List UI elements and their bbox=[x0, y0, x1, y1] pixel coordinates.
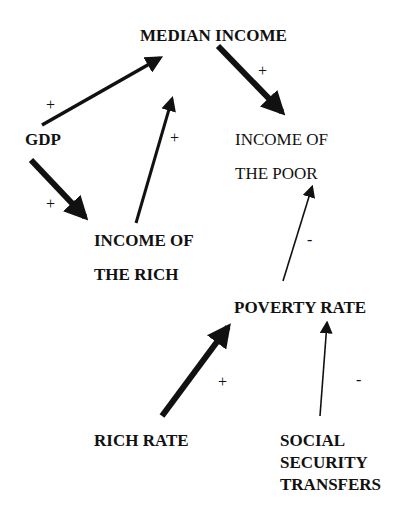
node-label-line-3: TRANSFERS bbox=[280, 476, 381, 493]
node-label: MEDIAN INCOME bbox=[140, 27, 287, 44]
node-rich-rate: RICH RATE bbox=[94, 432, 189, 449]
arrow-income-rich-to-median-income bbox=[136, 99, 172, 223]
node-label: POVERTY RATE bbox=[234, 299, 366, 316]
sign-socialsecurity-poverty: - bbox=[356, 372, 361, 388]
sign-median-poor: + bbox=[258, 63, 267, 79]
causal-loop-diagram: MEDIAN INCOME GDP INCOME OF THE POOR INC… bbox=[0, 0, 406, 519]
node-median-income: MEDIAN INCOME bbox=[140, 27, 287, 44]
node-income-of-the-poor: INCOME OF THE POOR bbox=[235, 131, 328, 182]
arrow-gdp-to-income-rich bbox=[31, 160, 85, 217]
arrow-social-security-to-poverty-rate bbox=[320, 323, 327, 416]
node-gdp: GDP bbox=[25, 131, 61, 148]
node-label-line-2: THE POOR bbox=[235, 165, 328, 182]
node-income-of-the-rich: INCOME OF THE RICH bbox=[94, 232, 194, 283]
node-label: GDP bbox=[25, 131, 61, 148]
node-label-line-1: INCOME OF bbox=[235, 131, 328, 148]
node-label: RICH RATE bbox=[94, 432, 189, 449]
arrow-median-income-to-income-poor bbox=[218, 46, 282, 112]
sign-poverty-poor: - bbox=[307, 232, 312, 248]
arrow-rich-rate-to-poverty-rate bbox=[162, 327, 228, 416]
node-social-security-transfers: SOCIAL SECURITY TRANSFERS bbox=[280, 432, 381, 493]
node-label-line-2: SECURITY bbox=[280, 454, 381, 471]
sign-rich-median: + bbox=[170, 130, 179, 146]
node-poverty-rate: POVERTY RATE bbox=[234, 299, 366, 316]
node-label-line-2: THE RICH bbox=[94, 266, 194, 283]
sign-richrate-poverty: + bbox=[218, 374, 227, 390]
sign-gdp-rich: + bbox=[46, 196, 55, 212]
arrow-gdp-to-median-income bbox=[42, 58, 160, 125]
sign-gdp-median: + bbox=[46, 97, 55, 113]
node-label-line-1: SOCIAL bbox=[280, 432, 381, 449]
node-label-line-1: INCOME OF bbox=[94, 232, 194, 249]
